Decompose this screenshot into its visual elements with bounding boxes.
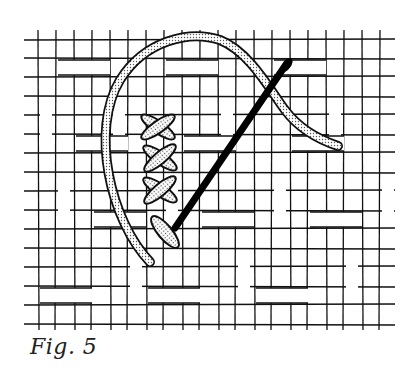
needlework-illustration <box>0 0 413 382</box>
figure: Fig. 5 <box>0 0 413 382</box>
figure-caption: Fig. 5 <box>30 334 97 359</box>
